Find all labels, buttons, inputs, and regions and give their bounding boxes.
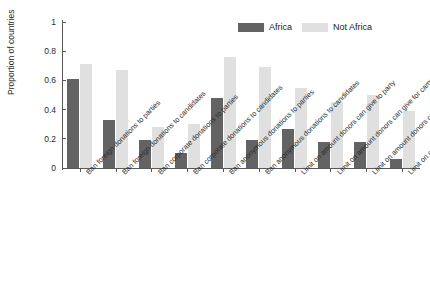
bar-not-africa [116, 70, 128, 168]
bar-chart: Proportion of countries 00.20.40.60.81 B… [0, 0, 430, 308]
legend-entry-africa: Africa [238, 22, 292, 32]
x-axis-labels: Ban foreign donations to partiesBan fore… [62, 170, 420, 300]
y-tick-label: 0.4 [44, 105, 62, 115]
x-axis-label: Limit on amount donors can give for camp… [335, 170, 341, 176]
x-axis-label: Ban corporate donations to parties [156, 170, 162, 176]
x-axis-label: Ban anonymous donations to parties [227, 170, 233, 176]
y-tick-label: 0 [51, 163, 62, 173]
x-axis-label: Limit on amount donors can give to candi… [370, 170, 376, 176]
legend-label-africa: Africa [269, 22, 292, 32]
bar-group [62, 22, 98, 168]
legend-swatch-not-africa [302, 23, 328, 32]
x-axis-label: Limit on amount donors can give to party [299, 170, 305, 176]
legend-swatch-africa [238, 23, 264, 32]
bar-not-africa [80, 64, 92, 168]
y-axis-title: Proportion of countries [6, 9, 16, 95]
y-tick-label: 0.6 [44, 75, 62, 85]
y-tick-label: 1 [51, 17, 62, 27]
x-axis-label: Ban foreign donations to parties [84, 170, 90, 176]
legend-label-not-africa: Not Africa [333, 22, 372, 32]
y-tick-label: 0.8 [44, 46, 62, 56]
chart-legend: Africa Not Africa [238, 22, 372, 32]
bar-africa [67, 79, 79, 168]
x-axis-label: Ban foreign donations to candidates [120, 170, 126, 176]
x-axis-label: Limit on contribution to own campaign [406, 170, 412, 176]
y-tick-label: 0.2 [44, 134, 62, 144]
bar-not-africa [259, 67, 271, 168]
x-axis-label: Ban corporate donations to candidates [191, 170, 197, 176]
legend-entry-not-africa: Not Africa [302, 22, 372, 32]
x-axis-label: Ban anonymous donations to candidates [263, 170, 269, 176]
